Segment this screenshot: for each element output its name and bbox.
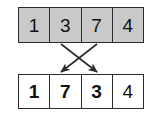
swap-arrow-left-to-right <box>61 44 97 72</box>
before-cell-2: 7 <box>82 8 113 42</box>
before-array-row: 1 3 7 4 <box>18 7 144 43</box>
swap-arrow-right-to-left <box>61 44 97 72</box>
after-cell-3: 4 <box>113 75 143 108</box>
before-cell-3: 4 <box>113 8 143 42</box>
diagram-canvas: 1 3 7 4 1 7 3 4 <box>0 0 162 119</box>
before-cell-1: 3 <box>50 8 81 42</box>
before-cell-0: 1 <box>19 8 50 42</box>
after-array-row: 1 7 3 4 <box>18 74 144 109</box>
after-cell-0: 1 <box>19 75 50 108</box>
after-cell-2: 3 <box>82 75 113 108</box>
after-cell-1: 7 <box>50 75 81 108</box>
